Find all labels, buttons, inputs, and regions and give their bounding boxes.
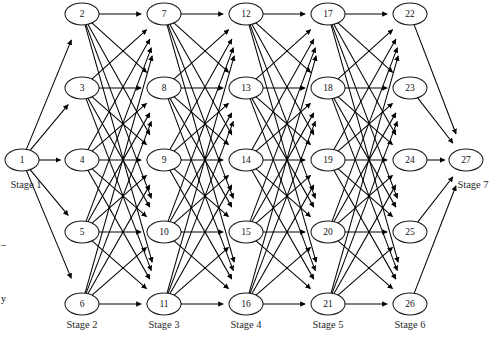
node-label: 16: [241, 299, 251, 309]
network-graph: 1234567891011121314151617181920212223242…: [0, 0, 491, 338]
node-label: 10: [159, 227, 169, 237]
node-label: 7: [162, 9, 167, 19]
stage-label-stage-2: Stage 2: [66, 319, 97, 330]
network-diagram-canvas: 1234567891011121314151617181920212223242…: [0, 0, 491, 338]
margin-glyph: y: [1, 293, 6, 304]
margin-dash: –: [1, 239, 6, 250]
edge: [334, 24, 396, 135]
graph-node[interactable]: 18: [311, 77, 345, 99]
edge: [88, 24, 150, 135]
graph-node[interactable]: 10: [147, 221, 181, 243]
node-label: 18: [323, 83, 333, 93]
node-label: 22: [405, 9, 415, 19]
edge: [92, 241, 146, 289]
edge: [256, 241, 310, 289]
graph-node[interactable]: 4: [65, 149, 99, 171]
node-label: 25: [405, 227, 415, 237]
graph-node[interactable]: 25: [393, 221, 427, 243]
graph-node[interactable]: 23: [393, 77, 427, 99]
node-label: 12: [241, 9, 251, 19]
node-label: 15: [241, 227, 251, 237]
edge: [252, 24, 314, 135]
graph-node[interactable]: 27: [449, 149, 483, 171]
node-label: 2: [80, 9, 85, 19]
node-label: 17: [323, 9, 333, 19]
graph-node[interactable]: 17: [311, 3, 345, 25]
node-label: 14: [241, 155, 251, 165]
edge: [338, 241, 392, 289]
node-label: 23: [405, 83, 415, 93]
node-label: 6: [80, 299, 85, 309]
edge: [338, 23, 393, 72]
edge: [338, 30, 393, 79]
node-label: 3: [80, 83, 85, 93]
edge: [418, 177, 453, 222]
graph-node[interactable]: 13: [229, 77, 263, 99]
graph-node[interactable]: 16: [229, 293, 263, 315]
graph-node[interactable]: 2: [65, 3, 99, 25]
graph-node[interactable]: 11: [147, 293, 181, 315]
graph-node[interactable]: 5: [65, 221, 99, 243]
stage-label-stage-6: Stage 6: [394, 319, 425, 330]
node-label: 19: [323, 155, 333, 165]
graph-node[interactable]: 26: [393, 293, 427, 315]
edge: [26, 40, 71, 150]
edge: [92, 30, 147, 79]
graph-node[interactable]: 6: [65, 293, 99, 315]
graph-node[interactable]: 24: [393, 149, 427, 171]
graph-node[interactable]: 21: [311, 293, 345, 315]
graph-node[interactable]: 12: [229, 3, 263, 25]
graph-node[interactable]: 7: [147, 3, 181, 25]
edge: [170, 24, 232, 135]
graph-node[interactable]: 1: [5, 149, 39, 171]
node-label: 9: [162, 155, 167, 165]
edge: [88, 185, 150, 294]
edge: [174, 30, 229, 79]
node-label: 5: [80, 227, 85, 237]
node-label: 13: [241, 83, 251, 93]
node-label: 21: [323, 299, 333, 309]
stage-label-stage-7: Stage 7: [457, 179, 488, 190]
graph-node[interactable]: 9: [147, 149, 181, 171]
edge: [256, 23, 311, 72]
stage-label-stage-4: Stage 4: [230, 319, 262, 330]
node-label: 26: [405, 299, 415, 309]
node-label: 4: [80, 155, 85, 165]
edge: [334, 185, 396, 294]
graph-node[interactable]: 3: [65, 77, 99, 99]
graph-node[interactable]: 8: [147, 77, 181, 99]
edge: [418, 98, 453, 143]
graph-node[interactable]: 20: [311, 221, 345, 243]
stage-label-stage-3: Stage 3: [148, 319, 179, 330]
node-label: 20: [323, 227, 333, 237]
stage-label-stage-1: Stage 1: [10, 179, 41, 190]
graph-node[interactable]: 14: [229, 149, 263, 171]
edge: [174, 241, 228, 289]
stage-label-stage-5: Stage 5: [312, 319, 343, 330]
nodes-layer: 1234567891011121314151617181920212223242…: [5, 3, 483, 315]
node-label: 24: [405, 155, 415, 165]
edge: [92, 23, 147, 72]
graph-node[interactable]: 22: [393, 3, 427, 25]
node-label: 1: [20, 155, 25, 165]
graph-node[interactable]: 19: [311, 149, 345, 171]
edge: [256, 30, 311, 79]
node-label: 27: [461, 155, 471, 165]
graph-node[interactable]: 15: [229, 221, 263, 243]
node-label: 8: [162, 83, 167, 93]
edge: [170, 185, 232, 294]
edge: [174, 23, 229, 72]
node-label: 11: [159, 299, 168, 309]
edge: [252, 185, 314, 294]
